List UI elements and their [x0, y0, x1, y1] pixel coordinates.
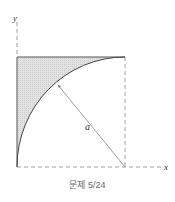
radius-line: [58, 85, 125, 167]
y-axis-label: y: [12, 13, 17, 23]
radius-label: a: [85, 121, 90, 132]
x-axis-label: x: [163, 162, 168, 172]
figure-caption: 문제 5/24: [0, 178, 175, 191]
shaded-area: [17, 57, 125, 167]
figure-diagram: a y x: [0, 0, 175, 202]
